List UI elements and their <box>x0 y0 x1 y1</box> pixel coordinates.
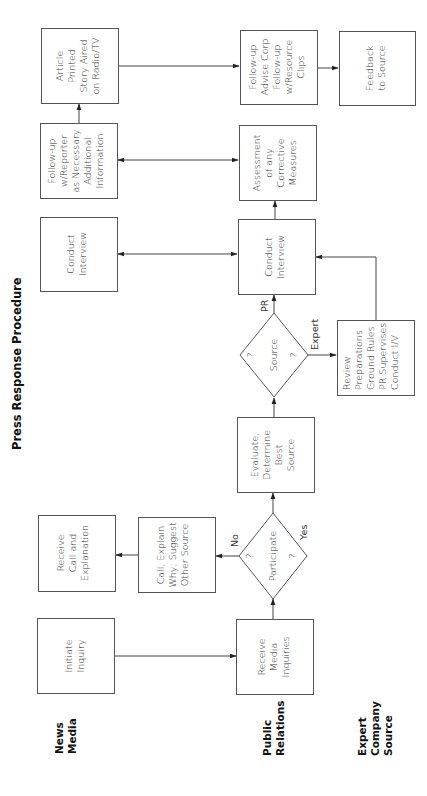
node-text: Call, Explain <box>155 526 166 585</box>
lane-label-line: Source <box>382 715 394 756</box>
lane-label-news-media: News Media <box>53 718 78 754</box>
edge-label-expert: Expert <box>309 319 320 350</box>
node-text: Source <box>268 339 279 372</box>
node-text: ? <box>245 352 256 357</box>
node-text: w/Resource <box>283 40 294 95</box>
node-text: Printed <box>66 49 77 83</box>
node-text: Clips <box>295 56 306 79</box>
node-text: to Source <box>376 45 387 90</box>
node-call-explain: Call, Explain Why; Suggest Other Source <box>139 518 216 593</box>
node-article-printed: Article Printed Story Aired on Radio/TV <box>42 29 119 104</box>
node-text: Follow-up <box>46 138 57 183</box>
node-text: Receive <box>256 638 267 675</box>
node-text: Article <box>54 51 65 82</box>
flowchart: Press Response Procedure News Media Publ… <box>0 0 427 796</box>
node-text: Ground Rules <box>365 326 376 390</box>
node-text: Why; Suggest <box>167 522 178 588</box>
node-initiate-inquiry: Initiate Inquiry <box>38 619 115 694</box>
node-conduct-interview-media: Conduct Interview <box>41 218 118 292</box>
node-text: Best <box>273 444 284 465</box>
node-text: Source <box>285 439 296 472</box>
node-review-preparations: Review Preparations Ground Rules PR Supe… <box>338 321 415 396</box>
node-assessment: Assessment of any Corrective Measures <box>240 126 317 201</box>
node-text: Participate <box>267 531 278 582</box>
node-text: PR Supervises <box>377 323 388 390</box>
node-text: ? <box>288 352 299 357</box>
node-text: ? <box>244 553 255 558</box>
node-text: Conduct I/V <box>389 335 400 390</box>
node-text: Conduct <box>263 237 274 277</box>
node-text: Advise Corp <box>259 39 270 96</box>
node-conduct-interview-pr: Conduct Interview <box>239 220 316 295</box>
node-source-decision: ? Source ? <box>240 313 308 397</box>
node-text: Evaluate, <box>249 433 260 478</box>
node-text: Inquiries <box>280 637 291 678</box>
node-receive-call: Receive Call and Explanation <box>39 516 116 592</box>
node-feedback-to-source: Feedback to Source <box>340 32 416 106</box>
node-text: Media <box>268 643 279 672</box>
node-evaluate-best-source: Evaluate, Determine Best Source <box>238 418 315 493</box>
node-text: Measures <box>287 140 298 185</box>
node-text: Interview <box>275 235 286 279</box>
lane-label-public-relations: Public Relations <box>261 701 286 756</box>
node-text: of any <box>263 148 274 178</box>
node-text: Story Aired <box>78 40 89 93</box>
lane-label-line: News <box>53 722 65 754</box>
edge-label-yes: Yes <box>298 525 309 541</box>
node-followup-advise: Follow-up Advise Corp Follow-up w/Resour… <box>241 31 318 105</box>
node-text: w/Reporter <box>58 135 69 187</box>
edge-label-no: No <box>229 534 240 547</box>
lane-label-line: Company <box>369 701 381 756</box>
node-text: Feedback <box>364 45 375 91</box>
edge-review-to-conduct <box>316 257 376 320</box>
node-text: Other Source <box>179 524 190 587</box>
node-text: Initiate <box>63 639 74 672</box>
node-text: ? <box>287 553 298 558</box>
lane-label-line: Media <box>66 718 78 754</box>
node-text: Preparations <box>353 330 364 390</box>
lane-label-line: Expert <box>356 717 368 756</box>
node-text: as Necessary <box>70 129 81 192</box>
node-text: on Radio/TV <box>90 37 101 95</box>
lane-label-expert-company-source: Expert Company Source <box>356 701 394 756</box>
edge-label-pr: PR <box>259 299 270 312</box>
node-text: Inquiry <box>75 639 86 672</box>
node-text: Assessment <box>251 134 262 191</box>
node-text: Follow-up <box>247 44 258 89</box>
lane-label-line: Relations <box>274 701 286 756</box>
node-text: Call and <box>67 534 78 573</box>
node-receive-media-inquiries: Receive Media Inquiries <box>237 620 314 695</box>
lane-label-line: Public <box>261 720 273 756</box>
node-text: Information <box>94 134 105 189</box>
node-text: Interview <box>77 232 88 276</box>
node-text: Receive <box>55 534 66 571</box>
node-text: Review <box>341 356 352 390</box>
node-participate-decision: ? Participate ? <box>239 513 307 599</box>
node-text: Corrective <box>275 138 286 187</box>
node-text: Conduct <box>65 234 76 274</box>
node-followup-reporter: Follow-up w/Reporter as Necessary Additi… <box>41 124 118 199</box>
node-text: Additional <box>82 137 93 185</box>
node-text: Explanation <box>79 525 90 581</box>
diagram-title: Press Response Procedure <box>10 277 24 450</box>
node-text: Determine <box>261 430 272 480</box>
node-text: Follow-up <box>271 44 282 89</box>
